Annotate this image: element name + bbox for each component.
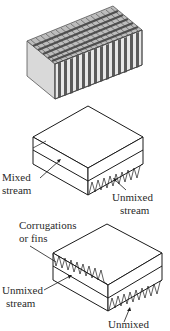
label-mixed: Mixed [2,171,31,184]
finned-block-figure [27,6,142,99]
label-unmixed-left: Unmixed [2,284,43,297]
label-unmixed-left-stream: stream [6,297,35,310]
mixed-unmixed-figure [33,106,143,195]
label-mixed-stream: stream [2,184,31,197]
label-corrugations: Corrugations [19,219,76,232]
label-or-fins: or fins [19,232,47,245]
diagram-canvas [0,0,170,331]
label-unmixed-bottom: Unmixed [108,318,149,331]
label-unmixed-2: Unmixed [112,191,153,204]
label-unmixed-stream-2: stream [120,204,149,217]
both-unmixed-figure [30,224,162,322]
